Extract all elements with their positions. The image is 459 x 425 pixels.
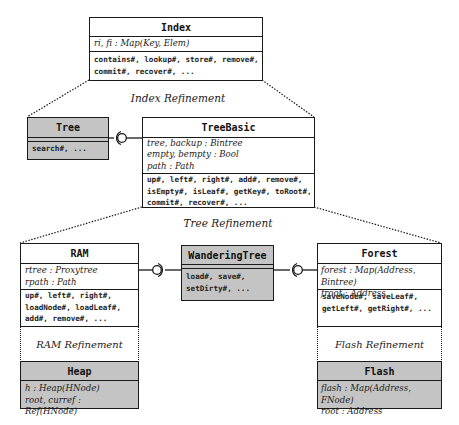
index-refinement-line-right bbox=[262, 80, 314, 117]
tree-operations: search#, ... bbox=[28, 141, 108, 159]
ram-attributes: rtree : Proxytree rpath : Path bbox=[21, 263, 138, 289]
wanderingtree-op-line: load#, save#, bbox=[186, 271, 269, 283]
forest-class-box: Forest forest : Map(Address, Bintree) fr… bbox=[317, 243, 442, 327]
index-class-box: Index ri, fi : Map(Key, Elem) contains#,… bbox=[89, 17, 263, 81]
tree-treebasic-ball-socket-icon bbox=[108, 132, 142, 145]
treebasic-attr: path : Path bbox=[147, 161, 310, 172]
tree-refinement-label: Tree Refinement bbox=[178, 217, 278, 229]
index-refinement-line-left bbox=[27, 80, 89, 117]
flash-attributes: flash : Map(Address, FNode) root : Addre… bbox=[318, 380, 441, 408]
tree-refinement-line-right bbox=[314, 207, 441, 243]
index-attributes: ri, fi : Map(Key, Elem) bbox=[90, 36, 262, 51]
ram-op-line: add#, remove#, ... bbox=[25, 313, 134, 325]
treebasic-op-line: commit#, recover#, ... bbox=[147, 197, 310, 209]
treebasic-op-line: isEmpty#, isLeaf#, getKey#, toRoot#, bbox=[147, 186, 310, 198]
heap-attr: h : Heap(HNode) bbox=[25, 383, 134, 395]
flash-attr: root : Address bbox=[321, 406, 437, 418]
wanderingtree-forest-ball-socket-icon bbox=[273, 264, 317, 277]
heap-attr: root, curref : Ref(HNode) bbox=[25, 395, 134, 418]
index-attr: ri, fi : Map(Key, Elem) bbox=[94, 38, 258, 50]
tree-refinement-line-left bbox=[20, 207, 142, 243]
forest-op-line: saveNode#, saveLeaf#, bbox=[322, 291, 437, 303]
treebasic-op-line: up#, left#, right#, add#, remove#, bbox=[147, 174, 310, 186]
treebasic-operations: up#, left#, right#, add#, remove#, isEmp… bbox=[143, 173, 314, 207]
index-op-line: commit#, recover#, ... bbox=[94, 66, 258, 78]
forest-operations: saveNode#, saveLeaf#, getLeft#, getRight… bbox=[318, 289, 441, 325]
ram-operations: up#, left#, right#, loadNode#, loadLeaf#… bbox=[21, 289, 138, 325]
heap-title: Heap bbox=[21, 362, 138, 380]
index-operations: contains#, lookup#, store#, remove#, com… bbox=[90, 51, 262, 80]
wanderingtree-op-line: setDirty#, ... bbox=[186, 283, 269, 295]
index-refinement-label: Index Refinement bbox=[130, 92, 226, 104]
index-op-line: contains#, lookup#, store#, remove#, bbox=[94, 54, 258, 66]
ram-op-line: loadNode#, loadLeaf#, bbox=[25, 302, 134, 314]
treebasic-class-box: TreeBasic tree, backup : Bintree empty, … bbox=[142, 117, 315, 208]
forest-attributes: forest : Map(Address, Bintree) froot : A… bbox=[318, 263, 441, 289]
flash-class-box: Flash flash : Map(Address, FNode) root :… bbox=[317, 361, 442, 409]
ram-attr: rtree : Proxytree bbox=[25, 265, 134, 277]
flash-refinement-section: Flash Refinement bbox=[317, 326, 442, 362]
ram-attr: rpath : Path bbox=[25, 277, 134, 289]
ram-title: RAM bbox=[21, 244, 138, 263]
flash-attr: flash : Map(Address, FNode) bbox=[321, 383, 437, 406]
ram-wanderingtree-ball-socket-icon bbox=[138, 264, 181, 277]
wanderingtree-operations: load#, save#, setDirty#, ... bbox=[182, 268, 273, 298]
tree-op-line: search#, ... bbox=[32, 143, 104, 155]
refinement-diagram: Index ri, fi : Map(Key, Elem) contains#,… bbox=[0, 0, 459, 425]
flash-title: Flash bbox=[318, 362, 441, 380]
forest-op-line: getLeft#, getRight#, ... bbox=[322, 303, 437, 315]
wanderingtree-title: WanderingTree bbox=[182, 246, 273, 264]
heap-class-box: Heap h : Heap(HNode) root, curref : Ref(… bbox=[20, 361, 139, 409]
index-title: Index bbox=[90, 18, 262, 36]
forest-attr: forest : Map(Address, Bintree) bbox=[321, 265, 437, 288]
treebasic-attr: empty, bempty : Bool bbox=[147, 149, 310, 160]
tree-title: Tree bbox=[28, 118, 108, 137]
ram-op-line: up#, left#, right#, bbox=[25, 290, 134, 302]
treebasic-attributes: tree, backup : Bintree empty, bempty : B… bbox=[143, 137, 314, 173]
treebasic-title: TreeBasic bbox=[143, 118, 314, 137]
ram-refinement-section: RAM Refinement bbox=[20, 326, 139, 362]
forest-title: Forest bbox=[318, 244, 441, 263]
wanderingtree-class-box: WanderingTree load#, save#, setDirty#, .… bbox=[181, 245, 274, 301]
treebasic-attr: tree, backup : Bintree bbox=[147, 138, 310, 149]
ram-class-box: RAM rtree : Proxytree rpath : Path up#, … bbox=[20, 243, 139, 327]
heap-attributes: h : Heap(HNode) root, curref : Ref(HNode… bbox=[21, 380, 138, 408]
tree-class-box: Tree search#, ... bbox=[27, 117, 109, 160]
